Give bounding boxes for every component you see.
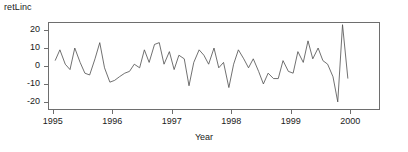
y-tick-mark: [44, 66, 48, 67]
x-tick-label: 1998: [211, 117, 251, 126]
x-tick-label: 1995: [33, 117, 73, 126]
x-tick-label: 1997: [152, 117, 192, 126]
x-tick-label: 1996: [92, 117, 132, 126]
x-tick-label: 2000: [330, 117, 370, 126]
y-tick-label: 20: [12, 25, 40, 34]
y-tick-mark: [44, 84, 48, 85]
y-tick-mark: [44, 30, 48, 31]
x-tick-mark: [291, 110, 292, 114]
x-tick-mark: [53, 110, 54, 114]
x-tick-label: 1999: [271, 117, 311, 126]
y-tick-mark: [44, 102, 48, 103]
x-tick-mark: [350, 110, 351, 114]
y-tick-label: 0: [12, 61, 40, 70]
data-polyline: [55, 25, 348, 102]
y-tick-label: -20: [12, 97, 40, 106]
x-tick-mark: [112, 110, 113, 114]
y-tick-mark: [44, 48, 48, 49]
x-tick-mark: [231, 110, 232, 114]
y-tick-label: -10: [12, 79, 40, 88]
chart-figure: retLinc 20100-10-20 19951996199719981999…: [0, 0, 408, 152]
x-tick-mark: [172, 110, 173, 114]
y-axis-label: retLinc: [4, 2, 32, 12]
y-tick-label: 10: [12, 43, 40, 52]
x-axis-label: Year: [0, 132, 408, 142]
series-line-retlinc: [48, 22, 380, 110]
